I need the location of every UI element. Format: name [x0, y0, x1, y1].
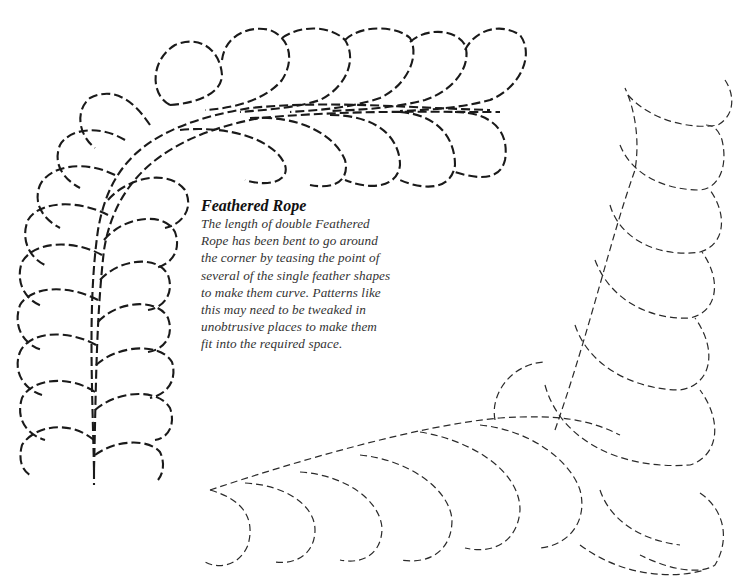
caption: Feathered Rope The length of double Feat…	[201, 196, 421, 353]
caption-title: Feathered Rope	[201, 196, 421, 215]
caption-line: this may need to be tweaked in	[201, 301, 421, 318]
caption-line: the corner by teasing the point of	[201, 249, 421, 266]
caption-line: several of the single feather shapes	[201, 267, 421, 284]
pattern-page: Feathered Rope The length of double Feat…	[0, 0, 755, 583]
caption-line: The length of double Feathered	[201, 215, 421, 232]
caption-line: unobtrusive places to make them	[201, 318, 421, 335]
caption-line: fit into the required space.	[201, 335, 421, 352]
caption-line: to make them curve. Patterns like	[201, 284, 421, 301]
caption-line: Rope has been bent to go around	[201, 232, 421, 249]
caption-body: The length of double Feathered Rope has …	[201, 215, 421, 353]
